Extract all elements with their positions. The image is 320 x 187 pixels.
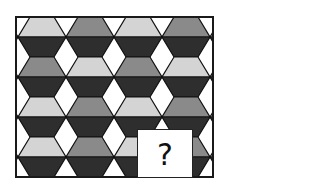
missing-piece-box[interactable]: ? xyxy=(137,129,193,178)
question-mark: ? xyxy=(157,140,173,170)
